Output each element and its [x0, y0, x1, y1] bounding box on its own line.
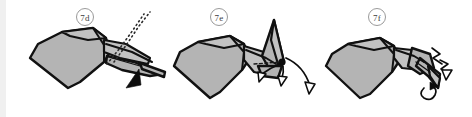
panel-7d: 7d	[0, 0, 165, 117]
step-label-text: 7e	[215, 13, 224, 23]
step-label-7d: 7d	[77, 9, 94, 26]
step-label-text: 7f	[373, 13, 381, 23]
panel-7e: 7e	[158, 0, 323, 117]
hollow-arrow-head-icon	[442, 70, 452, 80]
hollow-arrow-2-head-icon	[278, 76, 287, 86]
step-label-text: 7d	[80, 13, 90, 23]
step-label-7f: 7f	[369, 9, 386, 26]
origami-figure: 7d 7e	[0, 0, 472, 117]
zigzag-action-line-1	[432, 48, 442, 64]
panel-7f: 7f	[312, 0, 472, 117]
step-label-7e: 7e	[211, 9, 228, 26]
